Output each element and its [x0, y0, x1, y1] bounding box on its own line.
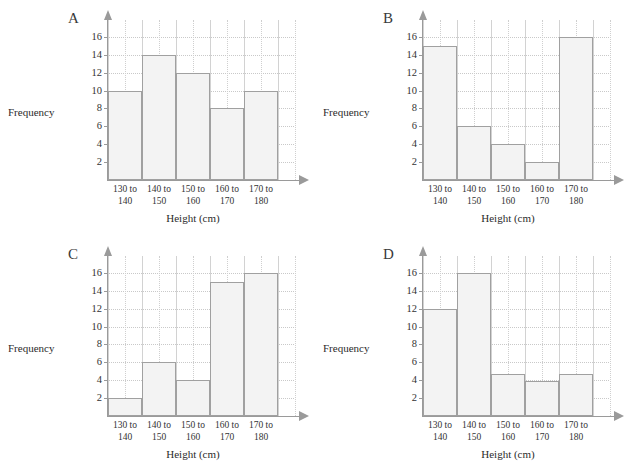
x-category-label-line2: 170 [525, 196, 559, 208]
chart-panel-a: A Frequency 246810121416 Height (cm) 130… [0, 0, 314, 236]
histogram-bar [559, 37, 593, 180]
x-axis-title-c: Height (cm) [108, 448, 278, 460]
x-category-label: 160 to170 [525, 184, 559, 207]
x-category-label: 130 to140 [108, 420, 142, 443]
gridline-vertical-major [593, 256, 594, 416]
y-tick-label: 16 [407, 268, 418, 279]
histogram-bar [108, 91, 142, 180]
x-axis-line-a [107, 180, 300, 181]
x-category-label-line2: 160 [176, 196, 210, 208]
x-category-label: 160 to170 [525, 420, 559, 443]
x-category-label-line2: 140 [423, 196, 457, 208]
x-category-label-line1: 140 to [462, 420, 486, 430]
y-axis-title-d: Frequency [323, 342, 369, 354]
x-category-label-line1: 150 to [496, 184, 520, 194]
y-tick-label: 16 [407, 32, 418, 43]
x-category-label-line1: 150 to [496, 420, 520, 430]
x-category-label: 170 to180 [244, 420, 278, 443]
histogram-bar [108, 398, 142, 416]
x-category-label-line2: 150 [457, 196, 491, 208]
gridline-vertical-minor [610, 20, 611, 180]
x-axis-title-a: Height (cm) [108, 212, 278, 224]
x-category-label-line1: 170 to [249, 184, 273, 194]
y-tick-label: 16 [92, 268, 103, 279]
x-category-label: 170 to180 [559, 184, 593, 207]
x-category-label-line1: 130 to [113, 420, 137, 430]
gridline-vertical-minor [542, 20, 543, 180]
x-axis-arrow-icon-d [614, 411, 624, 421]
histogram-bar [244, 273, 278, 416]
x-category-label-line1: 130 to [428, 420, 452, 430]
x-category-label-line2: 180 [559, 196, 593, 208]
x-category-label-line2: 180 [559, 432, 593, 444]
y-tick-label: 6 [412, 121, 417, 132]
gridline-horizontal [108, 55, 294, 56]
plot-area-a: 246810121416 [108, 28, 278, 180]
x-category-label-line1: 130 to [428, 184, 452, 194]
x-axis-line-b [422, 180, 615, 181]
y-tick-label: 8 [97, 339, 102, 350]
y-tick-label: 2 [97, 393, 102, 404]
histogram-bar [491, 144, 525, 180]
x-category-label-line1: 130 to [113, 184, 137, 194]
y-tick-label: 14 [407, 50, 418, 61]
histogram-bar [244, 91, 278, 180]
y-tick-label: 12 [92, 67, 103, 78]
gridline-vertical-minor [125, 256, 126, 416]
y-tick-label: 8 [97, 103, 102, 114]
y-tick-label: 6 [412, 357, 417, 368]
x-category-label: 130 to140 [423, 184, 457, 207]
panel-label-b: B [383, 10, 394, 27]
x-category-label-line2: 160 [491, 196, 525, 208]
histogram-bar [210, 108, 244, 180]
x-category-label-line2: 170 [210, 432, 244, 444]
y-tick-label: 8 [412, 103, 417, 114]
y-axis-arrow-icon-d [419, 246, 427, 256]
x-category-label-line1: 170 to [564, 184, 588, 194]
y-tick-label: 16 [92, 32, 103, 43]
x-category-label-line2: 140 [108, 432, 142, 444]
y-tick-label: 10 [407, 321, 418, 332]
histogram-bar [142, 362, 176, 416]
panel-label-d: D [383, 246, 394, 263]
x-category-label: 140 to150 [142, 184, 176, 207]
x-category-label-line2: 170 [525, 432, 559, 444]
histogram-bar [457, 273, 491, 416]
x-category-label-line2: 180 [244, 432, 278, 444]
y-tick-label: 4 [97, 139, 102, 150]
y-axis-arrow-icon-c [104, 246, 112, 256]
histogram-bar [423, 309, 457, 416]
y-tick-label: 10 [92, 321, 103, 332]
chart-panel-b: B Frequency 246810121416 Height (cm) 130… [315, 0, 629, 236]
x-axis-arrow-icon-c [299, 411, 309, 421]
x-category-label: 170 to180 [244, 184, 278, 207]
histogram-bar [142, 55, 176, 180]
y-axis-arrow-icon-a [104, 10, 112, 20]
x-category-label-line1: 160 to [530, 184, 554, 194]
y-tick-label: 12 [92, 303, 103, 314]
y-tick-label: 6 [97, 357, 102, 368]
x-category-label-line2: 170 [210, 196, 244, 208]
histogram-bar [491, 374, 525, 416]
gridline-vertical-minor [295, 256, 296, 416]
x-category-label-line2: 160 [491, 432, 525, 444]
x-category-label: 140 to150 [457, 184, 491, 207]
histogram-bar [525, 381, 559, 416]
x-axis-title-d: Height (cm) [423, 448, 593, 460]
x-category-label: 160 to170 [210, 420, 244, 443]
x-category-label: 140 to150 [142, 420, 176, 443]
x-category-label: 150 to160 [176, 420, 210, 443]
plot-area-b: 246810121416 [423, 28, 593, 180]
x-category-label-line2: 150 [142, 196, 176, 208]
x-category-label-line1: 160 to [530, 420, 554, 430]
y-axis-title-a: Frequency [8, 106, 54, 118]
x-axis-line-c [107, 416, 300, 417]
x-category-label-line1: 140 to [147, 184, 171, 194]
x-category-label-line2: 140 [423, 432, 457, 444]
x-category-label-line1: 170 to [249, 420, 273, 430]
histogram-bar [559, 374, 593, 416]
chart-panel-c: C Frequency 246810121416 Height (cm) 130… [0, 236, 314, 472]
x-category-label-line2: 180 [244, 196, 278, 208]
y-axis-arrow-icon-b [419, 10, 427, 20]
y-tick-label: 12 [407, 303, 418, 314]
